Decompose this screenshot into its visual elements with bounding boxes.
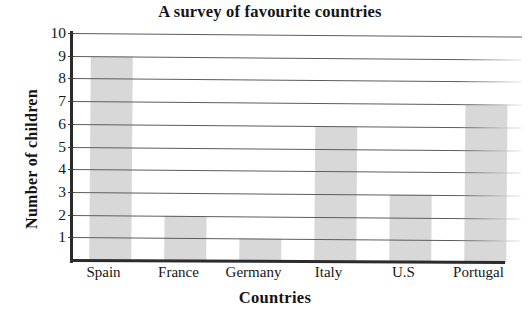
chart-title: A survey of favourite countries: [120, 2, 420, 22]
y-tick-mark-1: [68, 237, 74, 238]
y-tick-label-8: 8: [40, 70, 66, 86]
y-tick-mark-7: [68, 101, 74, 102]
x-axis-title: Countries: [150, 288, 400, 308]
gridline-6: [71, 124, 521, 129]
y-tick-label-7: 7: [40, 93, 66, 109]
y-tick-label-2: 2: [40, 207, 66, 223]
gridline-8: [72, 78, 522, 83]
gridline-9: [72, 56, 522, 61]
y-tick-mark-3: [68, 192, 74, 193]
y-tick-label-3: 3: [40, 184, 66, 200]
x-tick-label-spain: Spain: [66, 264, 141, 281]
y-tick-mark-4: [68, 169, 74, 170]
y-tick-label-4: 4: [40, 161, 66, 177]
y-tick-mark-10: [68, 33, 74, 34]
y-tick-label-9: 9: [40, 48, 66, 64]
gridline-2: [71, 215, 521, 220]
x-axis-line: [70, 259, 505, 263]
gridline-1: [70, 237, 520, 242]
x-tick-label-u-s: U.S: [366, 264, 441, 281]
plot-inner: [70, 33, 522, 264]
y-tick-label-6: 6: [40, 116, 66, 132]
bar-germany: [239, 239, 281, 262]
plot-area: [72, 33, 522, 260]
gridline-5: [71, 146, 521, 151]
x-tick-label-germany: Germany: [216, 264, 291, 281]
y-tick-mark-5: [68, 147, 74, 148]
gridline-3: [71, 192, 521, 197]
y-tick-mark-8: [68, 78, 74, 79]
y-tick-mark-6: [68, 124, 74, 125]
x-tick-label-portugal: Portugal: [441, 264, 516, 281]
y-tick-mark-9: [68, 56, 74, 57]
y-tick-mark-2: [68, 215, 74, 216]
y-tick-label-10: 10: [40, 25, 66, 41]
gridline-4: [71, 169, 521, 174]
gridline-7: [71, 101, 521, 106]
y-axis-tick-labels: 12345678910: [36, 0, 66, 319]
bar-spain: [89, 56, 133, 261]
x-tick-label-france: France: [141, 264, 216, 281]
gridlines-layer: [72, 33, 522, 37]
bar-chart-figure: A survey of favourite countries Number o…: [0, 0, 532, 319]
bar-u-s: [389, 194, 432, 262]
x-axis-tick-labels: SpainFranceGermanyItalyU.SPortugal: [72, 264, 522, 288]
y-tick-label-1: 1: [40, 229, 66, 245]
gridline-10: [72, 33, 522, 38]
x-tick-label-italy: Italy: [291, 264, 366, 281]
y-tick-label-5: 5: [40, 139, 66, 155]
